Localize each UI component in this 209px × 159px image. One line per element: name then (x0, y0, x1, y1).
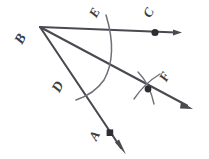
figure-canvas (0, 0, 209, 159)
ray-ba-arrowhead (115, 140, 126, 155)
point-dot-c (151, 29, 158, 36)
point-dot-a (107, 129, 114, 136)
ray-bf (40, 27, 193, 109)
ray-bc-arrowhead (173, 30, 182, 36)
geometry-figure: B E C D F A (0, 0, 209, 159)
ray-bf-arrowhead (180, 102, 193, 110)
point-dot-f (145, 86, 152, 93)
